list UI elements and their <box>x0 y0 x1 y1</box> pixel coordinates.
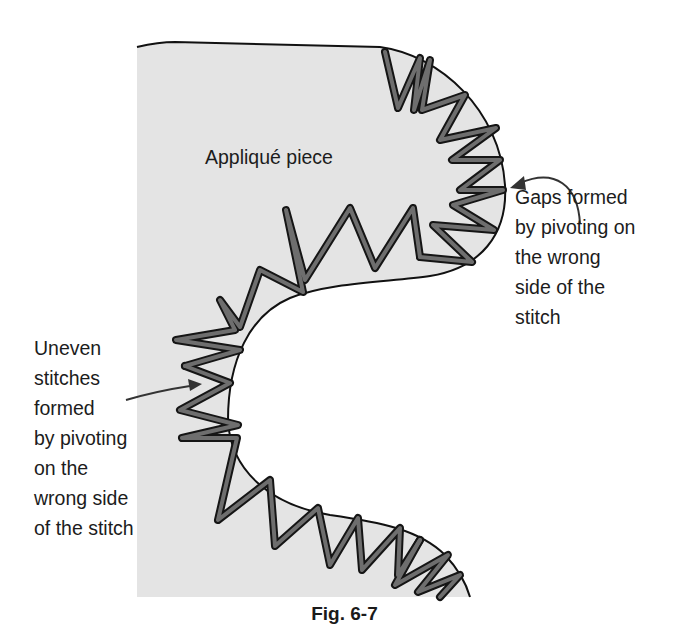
applique-piece-label: Appliqué piece <box>205 142 333 172</box>
gaps-callout-text: Gaps formed by pivoting on the wrong sid… <box>515 182 635 332</box>
figure-caption: Fig. 6-7 <box>0 603 689 625</box>
uneven-callout-text: Uneven stitches formed by pivoting on th… <box>34 333 134 543</box>
